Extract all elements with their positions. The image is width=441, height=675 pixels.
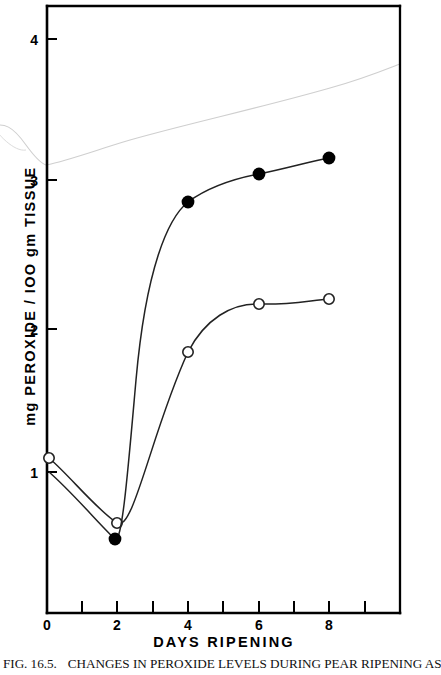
data-point-filled [109, 533, 122, 546]
plot-frame [47, 6, 400, 613]
data-point-open [254, 299, 264, 309]
x-axis-tick-labels: 0 2 4 6 8 [43, 617, 333, 632]
x-tick-label: 0 [43, 617, 51, 632]
data-point-filled [253, 168, 266, 181]
x-tick-label: 4 [184, 617, 192, 632]
x-axis-ticks [82, 601, 365, 613]
figure-caption-text: CHANGES IN PEROXIDE LEVELS DURING PEAR R… [68, 656, 441, 671]
x-tick-label: 8 [325, 617, 333, 632]
y-tick-label: 1 [30, 465, 38, 481]
y-axis-ticks [47, 39, 57, 472]
data-point-open [183, 347, 193, 357]
data-point-open [44, 453, 54, 463]
bleed-through-curve [0, 64, 400, 165]
figure-caption-number: FIG. 16.5. [3, 656, 57, 671]
x-axis-title: DAYS RIPENING [47, 634, 401, 650]
x-tick-label: 2 [113, 617, 121, 632]
chart-plot-area: 4 3 2 1 0 2 4 6 8 [0, 0, 441, 632]
y-axis-title: mg PEROXIDE / IOO gm TISSUE [22, 126, 38, 466]
x-tick-label: 6 [255, 617, 263, 632]
figure-caption: FIG. 16.5.CHANGES IN PEROXIDE LEVELS DUR… [0, 656, 441, 672]
open-circle-series [44, 294, 334, 528]
figure-container: 4 3 2 1 0 2 4 6 8 [0, 0, 441, 675]
data-point-filled [323, 152, 336, 165]
y-tick-label: 4 [30, 32, 38, 48]
data-point-open [324, 294, 334, 304]
data-point-filled [182, 196, 195, 209]
